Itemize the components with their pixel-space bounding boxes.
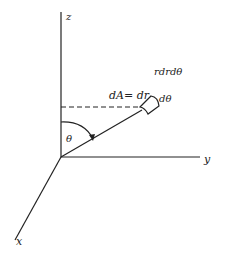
theta-label: θ xyxy=(66,133,72,144)
dA-label: dA= dr xyxy=(109,89,150,102)
x-axis xyxy=(15,157,61,240)
element-area-label: rdrdθ xyxy=(154,66,182,77)
y-axis-label: y xyxy=(203,153,211,166)
x-axis-label: x xyxy=(16,235,23,248)
radius-vector xyxy=(61,110,142,157)
spherical-coordinates-diagram: z y x rdrdθ dA= dr dθ θ xyxy=(0,0,225,255)
z-axis-label: z xyxy=(65,11,72,22)
dtheta-label: dθ xyxy=(159,93,171,104)
